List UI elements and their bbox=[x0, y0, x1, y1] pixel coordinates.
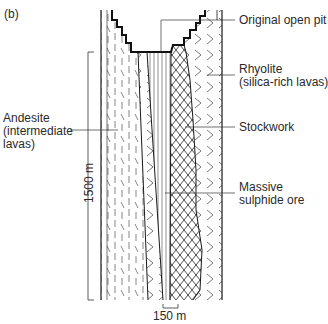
label-stockwork: Stockwork bbox=[239, 121, 294, 134]
label-original-open-pit: Original open pit bbox=[239, 14, 326, 27]
label-rhyolite: Rhyolite (silica-rich lavas) bbox=[239, 63, 328, 89]
label-andesite: Andesite (intermediate lavas) bbox=[3, 112, 73, 151]
horizontal-scale-label: 150 m bbox=[153, 310, 186, 323]
label-massive-sulphide: Massive sulphide ore bbox=[239, 181, 304, 207]
panel-label: (b) bbox=[4, 8, 19, 21]
vertical-scale-label: 1500 m bbox=[82, 158, 96, 208]
horizontal-scale-bar bbox=[163, 304, 178, 308]
